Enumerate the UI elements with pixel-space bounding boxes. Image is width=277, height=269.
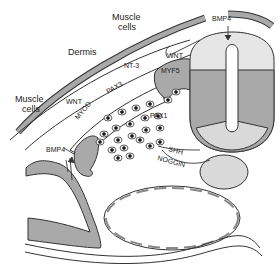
- vessel: [104, 186, 240, 250]
- label-shh: SHH: [168, 145, 184, 156]
- label-muscle-cells-top-2: cells: [118, 22, 137, 32]
- label-pax3: PAX3: [105, 80, 124, 95]
- label-wnt-top: WNT: [167, 52, 184, 59]
- label-muscle-cells-left-1: Muscle: [15, 94, 44, 104]
- label-bmp4-top: BMP4: [212, 15, 231, 22]
- label-muscle-cells-top-1: Muscle: [112, 12, 141, 22]
- label-myf5: MYF5: [161, 67, 180, 74]
- label-muscle-cells-left-2: cells: [22, 104, 41, 114]
- label-noggin: NOGGIN: [157, 154, 186, 168]
- label-bmp4-left: BMP4: [46, 146, 65, 153]
- somite-diagram: Muscle cells Dermis NT-3 WNT MYF5 PAX3 P…: [0, 0, 277, 269]
- notochord: [200, 155, 248, 189]
- label-dermis: Dermis: [68, 47, 97, 57]
- label-nt3: NT-3: [124, 62, 139, 69]
- neural-tube: [190, 32, 274, 152]
- label-pax1: PAX1: [150, 112, 167, 119]
- label-wnt-left: WNT: [66, 98, 83, 105]
